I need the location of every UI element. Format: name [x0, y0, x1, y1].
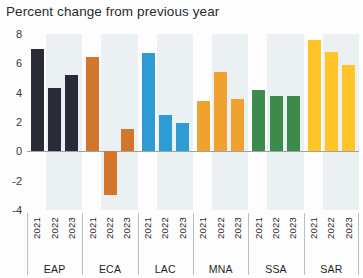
x-axis-group-label-mna: MNA — [193, 263, 248, 275]
y-axis-tick-0: 0 — [16, 145, 22, 157]
x-axis-group-label-lac: LAC — [138, 263, 193, 275]
y-axis-tick-2: 2 — [16, 116, 22, 128]
x-axis-year-label: 2021 — [32, 217, 42, 239]
x-axis-year-label: 2023 — [233, 217, 243, 239]
bar-eca-2023 — [121, 129, 134, 151]
bar-lac-2022 — [159, 115, 172, 152]
x-axis-year-label: 2021 — [198, 217, 208, 239]
y-axis-labels: 86420-2-4 — [0, 34, 25, 210]
x-axis-group-label-eca: ECA — [82, 263, 137, 275]
bar-mna-2023 — [231, 99, 244, 152]
x-axis-year-label: 2023 — [344, 217, 354, 239]
bar-eap-2023 — [65, 75, 78, 151]
plot-inner — [27, 34, 359, 210]
x-axis-group-label-ssa: SSA — [248, 263, 303, 275]
zero-baseline — [27, 151, 359, 152]
x-axis-year-label: 2022 — [326, 217, 336, 239]
bar-sar-2022 — [325, 52, 338, 152]
y-axis-tick-neg4: -4 — [12, 204, 22, 216]
x-axis-group-label-eap: EAP — [27, 263, 82, 275]
bar-eca-2021 — [86, 57, 99, 151]
x-axis-year-label: 2021 — [309, 217, 319, 239]
bar-eap-2022 — [48, 88, 61, 151]
chart-title: Percent change from previous year — [6, 4, 219, 19]
bar-sar-2021 — [308, 40, 321, 151]
bar-lac-2023 — [176, 123, 189, 151]
y-axis-tick-neg2: -2 — [12, 175, 22, 187]
x-axis-year-label: 2022 — [105, 217, 115, 239]
x-axis-year-label: 2023 — [178, 217, 188, 239]
x-axis-year-label: 2022 — [50, 217, 60, 239]
bar-eca-2022 — [104, 151, 117, 195]
bar-ssa-2023 — [287, 96, 300, 152]
x-axis-year-label: 2022 — [160, 217, 170, 239]
y-axis-tick-6: 6 — [16, 57, 22, 69]
x-axis-year-label: 2023 — [122, 217, 132, 239]
bar-mna-2022 — [214, 72, 227, 151]
bar-lac-2021 — [142, 53, 155, 151]
x-axis: 202120222023EAP202120222023ECA2021202220… — [27, 211, 359, 278]
y-axis-tick-4: 4 — [16, 87, 22, 99]
plot-area — [27, 34, 359, 210]
bar-ssa-2022 — [270, 96, 283, 152]
bar-ssa-2021 — [252, 90, 265, 152]
x-axis-year-label: 2023 — [288, 217, 298, 239]
x-axis-group-label-sar: SAR — [304, 263, 359, 275]
x-axis-year-label: 2023 — [67, 217, 77, 239]
x-axis-year-label: 2022 — [216, 217, 226, 239]
x-axis-year-label: 2022 — [271, 217, 281, 239]
bar-mna-2021 — [197, 101, 210, 151]
x-axis-year-label: 2021 — [88, 217, 98, 239]
chart-container: Percent change from previous year 86420-… — [0, 0, 363, 278]
x-axis-year-label: 2021 — [254, 217, 264, 239]
bar-sar-2023 — [342, 65, 355, 152]
y-axis-tick-8: 8 — [16, 28, 22, 40]
bar-eap-2021 — [31, 49, 44, 152]
x-axis-year-label: 2021 — [143, 217, 153, 239]
